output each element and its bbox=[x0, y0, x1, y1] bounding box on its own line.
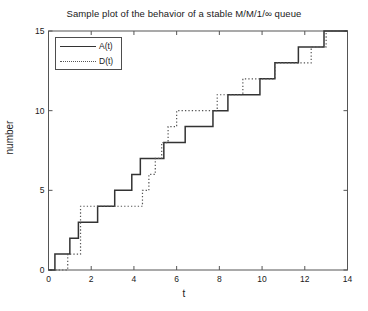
x-tick-label: 8 bbox=[217, 274, 222, 284]
chart-figure: Sample plot of the behavior of a stable … bbox=[0, 0, 368, 311]
legend-line-sample-solid bbox=[60, 41, 96, 51]
x-tick-label: 10 bbox=[257, 274, 266, 284]
y-tick-label: 5 bbox=[1, 185, 45, 195]
x-axis-label: t bbox=[0, 288, 368, 299]
legend-label-d: D(t) bbox=[99, 56, 113, 66]
chart-legend: A(t) D(t) bbox=[55, 37, 122, 70]
y-axis-label: number bbox=[4, 108, 15, 168]
legend-line-sample-dotted bbox=[60, 56, 96, 66]
legend-label-a: A(t) bbox=[99, 41, 113, 51]
y-tick-label: 0 bbox=[1, 265, 45, 275]
x-tick-label: 2 bbox=[89, 274, 94, 284]
x-tick-label: 14 bbox=[343, 274, 352, 284]
x-tick-label: 6 bbox=[174, 274, 179, 284]
x-tick-label: 0 bbox=[46, 274, 51, 284]
x-tick-label: 4 bbox=[132, 274, 137, 284]
x-tick-label: 12 bbox=[300, 274, 309, 284]
legend-entry-a: A(t) bbox=[56, 38, 123, 54]
y-tick-label: 15 bbox=[1, 26, 45, 36]
legend-entry-d: D(t) bbox=[56, 53, 123, 69]
